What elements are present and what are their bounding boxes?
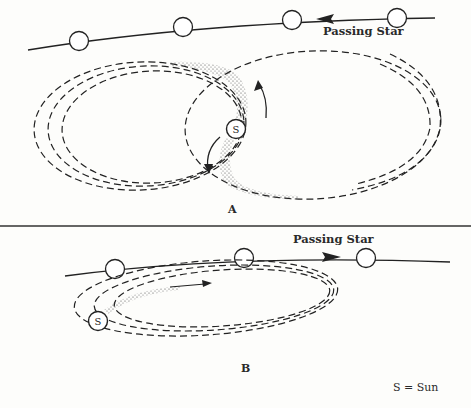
arrow-right-small-icon xyxy=(202,280,212,287)
passing-star-label-b: Passing Star xyxy=(293,232,374,246)
passing-star-b-3 xyxy=(357,249,376,268)
orbits-left xyxy=(31,57,249,196)
sun-symbol-b: S xyxy=(95,316,102,327)
sun-symbol-a: S xyxy=(233,124,240,135)
tidal-stream-lower xyxy=(219,138,300,200)
curved-arrow-up xyxy=(259,84,266,118)
panel-label-b: B xyxy=(241,362,250,375)
panel-label-a: A xyxy=(228,203,237,216)
stream-arrow-b xyxy=(170,284,205,287)
panel-b: S xyxy=(65,249,450,345)
passing-star-label-a: Passing Star xyxy=(323,24,404,38)
passing-star-b-1 xyxy=(106,260,125,279)
panel-a: S xyxy=(28,9,445,206)
tidal-stream-upper xyxy=(170,62,248,120)
arrow-left-icon xyxy=(316,14,334,24)
passing-star-a-2 xyxy=(174,18,193,37)
legend-sun: S = Sun xyxy=(393,381,438,394)
passing-star-a-1 xyxy=(70,32,89,51)
tidal-theory-diagram: S S Passing Star A Passing Star B S = xyxy=(0,0,471,408)
passing-star-a-3 xyxy=(283,11,302,30)
